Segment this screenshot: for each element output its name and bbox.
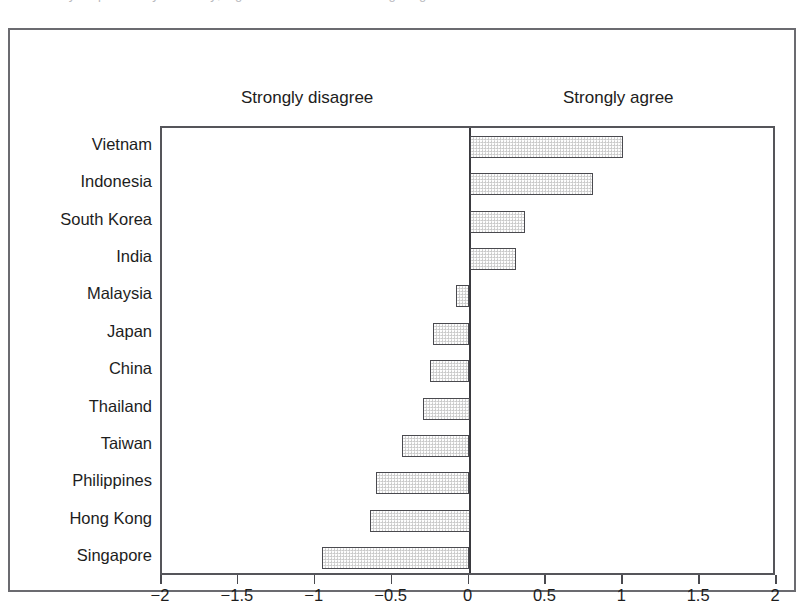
category-label-south-korea: South Korea xyxy=(12,210,152,229)
x-tick-mark xyxy=(237,575,239,584)
category-label-indonesia: Indonesia xyxy=(12,172,152,191)
x-tick-mark xyxy=(775,575,777,584)
x-tick-mark xyxy=(391,575,393,584)
x-tick-label: 1 xyxy=(617,586,626,605)
caption-sliver-text: survey responses by economy; higher valu… xyxy=(36,0,476,2)
bar-india xyxy=(470,248,516,270)
caption-sliver: survey responses by economy; higher valu… xyxy=(0,0,806,12)
x-tick-mark xyxy=(468,575,470,584)
category-label-thailand: Thailand xyxy=(12,397,152,416)
x-tick-label: 2 xyxy=(770,586,779,605)
category-label-china: China xyxy=(12,359,152,378)
bar-china xyxy=(430,360,470,382)
category-label-india: India xyxy=(12,247,152,266)
x-tick-mark xyxy=(314,575,316,584)
x-tick-label: −1.5 xyxy=(221,586,254,605)
x-tick-mark xyxy=(621,575,623,584)
bar-hong-kong xyxy=(370,510,470,532)
x-tick-label: 0.5 xyxy=(533,586,556,605)
category-label-philippines: Philippines xyxy=(12,471,152,490)
x-tick-mark xyxy=(544,575,546,584)
bar-vietnam xyxy=(470,136,624,158)
bar-thailand xyxy=(423,398,469,420)
x-tick-label: −2 xyxy=(151,586,170,605)
x-axis: −2−1.5−1−0.500.511.52 xyxy=(160,575,775,612)
category-label-singapore: Singapore xyxy=(12,546,152,565)
bar-taiwan xyxy=(402,435,470,457)
category-label-malaysia: Malaysia xyxy=(12,284,152,303)
plot-area xyxy=(160,126,775,575)
pole-label-negative: Strongly disagree xyxy=(241,88,373,108)
bar-philippines xyxy=(376,472,470,494)
figure-frame: Strongly disagree Strongly agree Vietnam… xyxy=(8,28,796,592)
bar-malaysia xyxy=(456,285,470,307)
bar-south-korea xyxy=(470,211,525,233)
x-tick-label: −0.5 xyxy=(374,586,407,605)
category-label-vietnam: Vietnam xyxy=(12,135,152,154)
x-tick-label: 0 xyxy=(463,586,472,605)
bar-singapore xyxy=(322,547,470,569)
bar-japan xyxy=(433,323,470,345)
category-axis-labels: VietnamIndonesiaSouth KoreaIndiaMalaysia… xyxy=(10,126,152,575)
x-tick-mark xyxy=(698,575,700,584)
category-label-taiwan: Taiwan xyxy=(12,434,152,453)
category-label-japan: Japan xyxy=(12,322,152,341)
x-tick-mark xyxy=(160,575,162,584)
category-label-hong-kong: Hong Kong xyxy=(12,509,152,528)
bar-indonesia xyxy=(470,173,593,195)
pole-label-positive: Strongly agree xyxy=(563,88,674,108)
x-tick-label: 1.5 xyxy=(687,586,710,605)
x-tick-label: −1 xyxy=(304,586,323,605)
